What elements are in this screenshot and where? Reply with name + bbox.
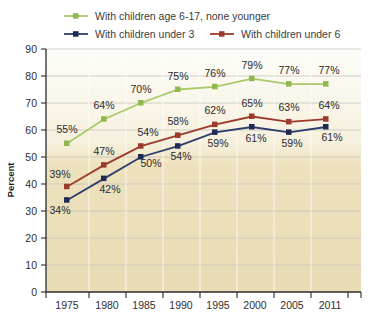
chart-container: 90 80 70 60 50 40 30 20 10 0 Percent 197… — [0, 0, 382, 317]
data-label: 64% — [318, 99, 339, 111]
data-label: 55% — [56, 123, 77, 135]
data-label: 65% — [241, 97, 262, 109]
data-label: 75% — [167, 70, 188, 82]
data-label: 39% — [49, 168, 70, 180]
legend-label: With children age 6-17, none younger — [95, 10, 271, 22]
y-tick-label: 40 — [25, 178, 37, 190]
data-label: 77% — [278, 64, 299, 76]
y-tick-label: 0 — [31, 286, 37, 298]
y-tick-label: 70 — [25, 97, 37, 109]
data-label: 34% — [49, 204, 70, 216]
data-label: 54% — [170, 150, 191, 162]
data-label: 61% — [321, 131, 342, 143]
legend-swatch-marker-green — [73, 13, 79, 19]
data-label: 42% — [99, 183, 120, 195]
legend-item-children-under-3[interactable]: With children under 3 — [64, 28, 194, 40]
data-label: 54% — [137, 126, 158, 138]
y-axis-tick-labels: 90 80 70 60 50 40 30 20 10 0 — [25, 43, 37, 298]
legend-label: With children under 3 — [95, 28, 194, 40]
x-tick-label: 2000 — [243, 299, 267, 311]
x-tick-label: 1985 — [132, 299, 156, 311]
data-label: 58% — [167, 115, 188, 127]
y-tick-label: 60 — [25, 124, 37, 136]
x-tick-label: 1980 — [95, 299, 119, 311]
line-chart: 90 80 70 60 50 40 30 20 10 0 Percent 197… — [0, 0, 382, 317]
legend-label: With children under 6 — [241, 28, 340, 40]
data-label: 59% — [281, 137, 302, 149]
x-tick-label: 1975 — [55, 299, 79, 311]
data-label: 64% — [93, 99, 114, 111]
data-label: 47% — [93, 145, 114, 157]
y-tick-label: 50 — [25, 151, 37, 163]
legend-item-children-under-6[interactable]: With children under 6 — [210, 28, 340, 40]
x-axis-tick-labels: 1975 1980 1985 1990 1995 2000 2005 2011 — [55, 299, 341, 311]
data-label: 70% — [130, 83, 151, 95]
y-tick-label: 10 — [25, 259, 37, 271]
x-tick-label: 1990 — [169, 299, 193, 311]
data-label: 50% — [140, 157, 161, 169]
y-tick-label: 30 — [25, 205, 37, 217]
y-tick-label: 20 — [25, 232, 37, 244]
chart-legend: With children age 6-17, none younger Wit… — [64, 10, 340, 40]
legend-item-children-6-17[interactable]: With children age 6-17, none younger — [64, 10, 271, 22]
data-label: 62% — [204, 104, 225, 116]
data-label: 79% — [241, 59, 262, 71]
y-tick-label: 90 — [25, 43, 37, 55]
x-tick-label: 2011 — [319, 299, 342, 311]
x-axis-ticks — [46, 292, 361, 298]
y-axis-ticks — [41, 49, 46, 292]
x-tick-label: 2005 — [280, 299, 304, 311]
legend-swatch-marker-red — [219, 31, 225, 37]
data-label: 61% — [245, 132, 266, 144]
y-tick-label: 80 — [25, 70, 37, 82]
data-label: 77% — [318, 64, 339, 76]
legend-swatch-marker-blue — [73, 31, 79, 37]
data-label: 63% — [278, 101, 299, 113]
data-label: 59% — [207, 137, 228, 149]
data-label: 76% — [204, 67, 225, 79]
y-axis-title: Percent — [5, 162, 16, 198]
x-tick-label: 1995 — [206, 299, 230, 311]
